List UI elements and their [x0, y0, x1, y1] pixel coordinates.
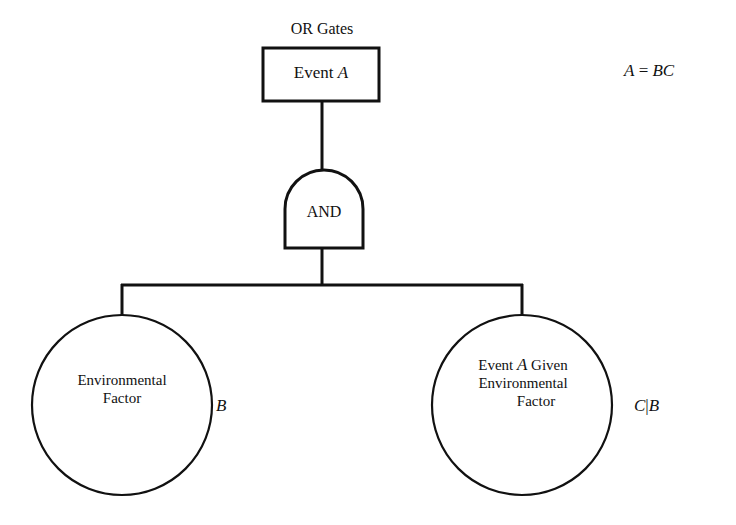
- right-basic-event-line3: Factor: [444, 393, 602, 411]
- fault-tree-figure: OR Gates Event A AND EnvironmentalFactor…: [0, 0, 736, 525]
- left-basic-event-line2: Factor: [103, 390, 141, 406]
- equation-lhs: A: [624, 61, 634, 80]
- equation-operator: =: [634, 61, 652, 80]
- right-var-c: C: [634, 396, 645, 415]
- equation-annotation: A = BC: [624, 61, 724, 81]
- right-basic-event-variable: C|B: [634, 396, 694, 416]
- left-basic-event-variable: B: [216, 396, 256, 416]
- right-basic-event-line1-post: Given: [527, 357, 567, 373]
- right-basic-event-label: Event A GivenEnvironmentalFactor: [444, 355, 602, 410]
- left-basic-event-label: EnvironmentalFactor: [42, 372, 202, 407]
- left-basic-event-line1: Environmental: [77, 372, 166, 388]
- top-event-label: Event A: [263, 63, 379, 83]
- right-basic-event-line1-pre: Event: [478, 357, 517, 373]
- right-basic-event-symbol: A: [517, 355, 527, 374]
- or-gates-caption: OR Gates: [222, 20, 422, 39]
- right-basic-event-line2: Environmental: [478, 375, 567, 391]
- right-var-b: B: [649, 396, 659, 415]
- and-gate-label: AND: [284, 203, 364, 222]
- top-event-symbol: A: [338, 63, 348, 82]
- equation-rhs: BC: [652, 61, 674, 80]
- top-event-word: Event: [294, 63, 338, 82]
